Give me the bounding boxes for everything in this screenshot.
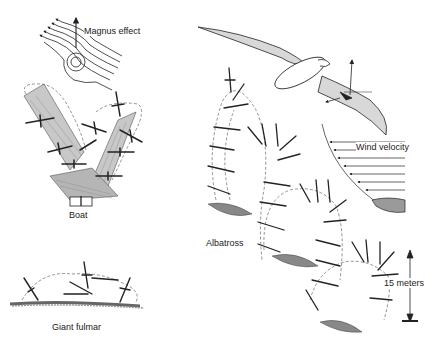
magnus-effect-label: Magnus effect [84,26,140,36]
wind-velocity-profile [322,124,405,212]
fifteen-meters-label: 15 meters [384,278,424,288]
giant-fulmar-sketch [10,262,144,308]
giant-fulmar-label: Giant fulmar [52,322,101,332]
boat-label: Boat [69,210,88,220]
diagram-illustration [0,0,446,341]
albatross-bird-sketch [198,27,387,135]
soaring-diagram: Magnus effect Boat Giant fulmar Albatros… [0,0,446,341]
wind-velocity-label: Wind velocity [356,142,409,152]
albatross-label: Albatross [206,238,244,248]
boat-wake-sketch [24,84,142,206]
